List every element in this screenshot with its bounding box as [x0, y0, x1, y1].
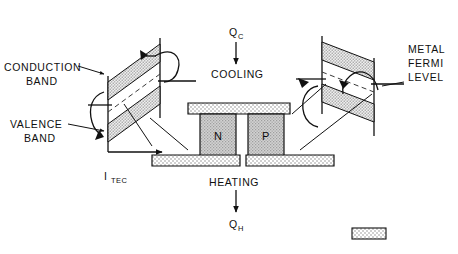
qc-subscript: C: [238, 32, 244, 41]
valence-band-label-line2: BAND: [24, 132, 56, 144]
tec-device: [152, 103, 334, 166]
right-band-diagram: [292, 36, 404, 150]
p-pellet-label: P: [262, 130, 270, 142]
qc-symbol: Q: [229, 26, 238, 38]
right-carrier-arrow-lower: [303, 86, 318, 127]
right-leader-line-a: [292, 84, 326, 114]
legend-swatch: [352, 228, 386, 239]
qh-subscript: H: [238, 224, 244, 233]
itec-subscript: TEC: [111, 176, 127, 185]
tec-band-diagram-figure: CONDUCTION BAND VALENCE BAND METAL FERMI…: [0, 0, 458, 254]
hot-side-plate-left: [152, 155, 240, 166]
hot-side-plate-right: [246, 155, 334, 166]
valence-band-leader: [68, 124, 104, 131]
metal-fermi-label-line2: FERMI: [408, 57, 444, 69]
left-band-diagram: [88, 38, 196, 152]
metal-fermi-label-line3: LEVEL: [408, 71, 444, 83]
conduction-band-label-line2: BAND: [26, 75, 58, 87]
conduction-band-leader: [78, 66, 104, 74]
qh-symbol: Q: [229, 218, 238, 230]
heating-label: HEATING: [209, 176, 259, 188]
metal-fermi-label-line1: METAL: [408, 43, 445, 55]
left-leader-line-a: [150, 118, 188, 150]
n-pellet-label: N: [214, 130, 222, 142]
cooling-label: COOLING: [211, 68, 264, 80]
itec-symbol: I: [104, 170, 108, 182]
cold-side-plate: [188, 103, 290, 114]
right-conduction-band-slab: [322, 42, 374, 80]
legend-swatch-rect: [352, 228, 386, 239]
conduction-band-label-line1: CONDUCTION: [4, 61, 81, 73]
right-valence-band-slab: [322, 84, 374, 122]
diagram-canvas: CONDUCTION BAND VALENCE BAND METAL FERMI…: [0, 0, 458, 254]
valence-band-label-line1: VALENCE: [10, 118, 62, 130]
